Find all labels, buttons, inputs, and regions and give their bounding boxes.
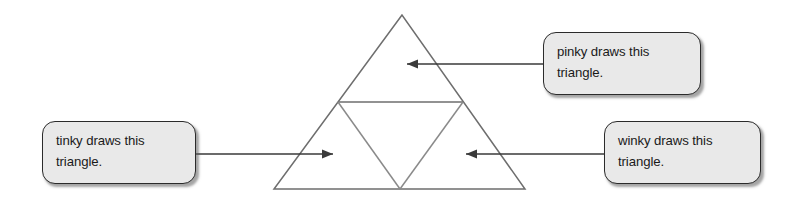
figure-canvas: pinky draws this triangle. tinky draws t…: [0, 0, 797, 203]
callout-pinky-line-2: triangle.: [557, 63, 687, 84]
triangle-outline-group: [274, 15, 525, 189]
callout-winky: winky draws this triangle.: [604, 121, 761, 184]
callout-pinky-line-1: pinky draws this: [557, 42, 687, 63]
callout-pinky: pinky draws this triangle.: [543, 32, 701, 95]
inverted-triangle-right-edge: [400, 102, 463, 189]
callout-winky-line-2: triangle.: [618, 152, 747, 173]
callout-tinky-line-1: tinky draws this: [56, 131, 182, 152]
callout-tinky-line-2: triangle.: [56, 152, 182, 173]
inverted-triangle-left-edge: [338, 102, 400, 189]
callout-tinky: tinky draws this triangle.: [42, 121, 196, 184]
callout-winky-line-1: winky draws this: [618, 131, 747, 152]
